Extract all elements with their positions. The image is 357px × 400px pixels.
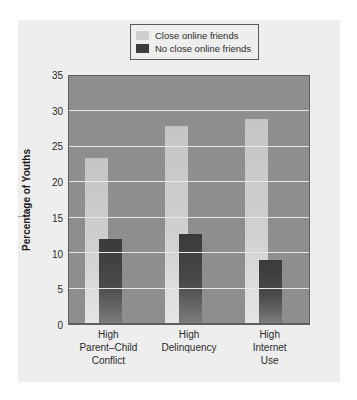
y-tick-label-10: 10: [52, 248, 63, 259]
legend-item-close-online-friends: Close online friends: [136, 29, 251, 42]
bar-no-close-online-friends-group-2: [179, 234, 202, 324]
y-tick-label-0: 0: [57, 320, 63, 331]
legend-label-close-online-friends: Close online friends: [155, 29, 238, 42]
legend-item-no-close-online-friends: No close online friends: [136, 42, 251, 55]
x-axis-label-line: High: [68, 328, 149, 341]
legend-swatch-close-online-friends: [136, 31, 149, 40]
x-axis-label-line: Delinquency: [149, 341, 230, 354]
x-axis-group-label-2: HighDelinquency: [149, 328, 230, 367]
gridline-20: [69, 181, 309, 182]
plot-wrapper: Percentage of Youths 05101520253035: [68, 75, 310, 325]
y-axis-label: Percentage of Youths: [21, 149, 32, 251]
y-tick-label-5: 5: [57, 284, 63, 295]
y-tick-label-25: 25: [52, 141, 63, 152]
x-axis-labels: HighParent–ChildConflictHighDelinquencyH…: [68, 328, 310, 367]
gridline-25: [69, 146, 309, 147]
x-axis-label-line: High: [149, 328, 230, 341]
gridline-5: [69, 288, 309, 289]
y-tick-label-15: 15: [52, 212, 63, 223]
gridline-0: [69, 323, 309, 324]
legend-label-no-close-online-friends: No close online friends: [155, 42, 251, 55]
plot-area: [68, 75, 310, 325]
x-axis-label-line: Parent–Child: [68, 341, 149, 354]
gridline-15: [69, 217, 309, 218]
x-axis-group-label-1: HighParent–ChildConflict: [68, 328, 149, 367]
y-tick-label-30: 30: [52, 105, 63, 116]
bar-no-close-online-friends-group-3: [259, 260, 282, 324]
gridline-10: [69, 252, 309, 253]
x-axis-group-label-3: HighInternetUse: [229, 328, 310, 367]
y-tick-label-20: 20: [52, 177, 63, 188]
y-tick-label-35: 35: [52, 70, 63, 81]
x-axis-label-line: Use: [229, 354, 310, 367]
gridline-35: [69, 75, 309, 76]
figure-panel: Close online friends No close online fri…: [18, 20, 340, 382]
legend-swatch-no-close-online-friends: [136, 44, 149, 53]
chart-legend: Close online friends No close online fri…: [130, 24, 259, 60]
x-axis-label-line: Conflict: [68, 354, 149, 367]
gridline-30: [69, 110, 309, 111]
x-axis-label-line: Internet: [229, 341, 310, 354]
x-axis-label-line: High: [229, 328, 310, 341]
